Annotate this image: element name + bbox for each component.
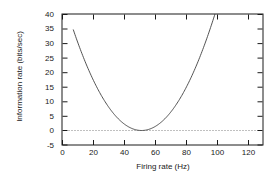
x-tick-label-80: 80: [174, 148, 199, 157]
x-tick-label-100: 100: [205, 148, 230, 157]
x-tick-label-0: 0: [50, 148, 75, 157]
information-rate-curve: [73, 0, 236, 130]
y-tick-label-35: 35: [30, 24, 54, 33]
y-axis-ticks: [63, 15, 263, 146]
y-tick-label-5: 5: [30, 112, 54, 121]
y-tick-label-40: 40: [30, 10, 54, 19]
y-tick-label-10: 10: [30, 97, 54, 106]
y-tick-label-0: 0: [30, 126, 54, 135]
x-tick-label-20: 20: [81, 148, 106, 157]
x-tick-label-60: 60: [143, 148, 168, 157]
y-tick-label-20: 20: [30, 68, 54, 77]
y-tick-label-30: 30: [30, 39, 54, 48]
chart-figure: 40 35 30 25 20 15 10 5 0 -5 0 20 40 60 8…: [0, 0, 272, 179]
x-axis-label: Firing rate (Hz): [62, 162, 264, 171]
y-axis-label: Information rate (bits/sec): [15, 17, 24, 137]
x-tick-label-40: 40: [112, 148, 137, 157]
x-axis-ticks: [63, 15, 249, 146]
y-tick-label-15: 15: [30, 83, 54, 92]
x-tick-label-120: 120: [236, 148, 261, 157]
y-tick-label-25: 25: [30, 54, 54, 63]
plot-frame: [62, 14, 263, 145]
